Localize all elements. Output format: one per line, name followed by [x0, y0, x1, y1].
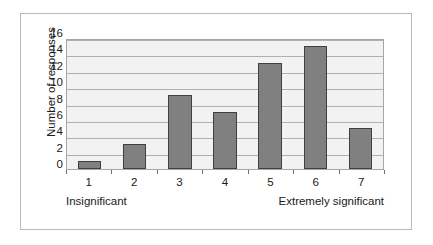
y-tick-label: 14 — [50, 43, 63, 55]
y-tick-label: 10 — [50, 76, 63, 88]
x-tick-label: 7 — [339, 176, 384, 188]
x-tick-mark — [293, 170, 294, 174]
x-axis-tick-labels: 1234567 — [66, 176, 384, 188]
bar-slot — [157, 40, 202, 169]
bar — [258, 63, 281, 169]
bar — [78, 161, 101, 169]
anchor-label-right: Extremely significant — [279, 195, 384, 207]
x-tick-mark — [111, 170, 112, 174]
x-axis-tick-marks — [66, 170, 384, 175]
y-tick-label: 16 — [50, 27, 63, 39]
bar-slot — [248, 40, 293, 169]
x-tick-label: 5 — [248, 176, 293, 188]
x-tick-mark — [202, 170, 203, 174]
y-tick-label: 8 — [57, 93, 63, 105]
bar-series — [67, 40, 383, 169]
x-tick-label: 6 — [293, 176, 338, 188]
y-tick-label: 0 — [57, 158, 63, 170]
chart-figure: Number of responses 1614121086420 123456… — [20, 13, 412, 230]
x-tick-mark — [339, 170, 340, 174]
y-tick-label: 2 — [57, 142, 63, 154]
bar-slot — [67, 40, 112, 169]
y-axis-tick-labels: 1614121086420 — [31, 33, 63, 164]
anchor-label-left: Insignificant — [66, 195, 127, 207]
y-tick-label: 4 — [57, 125, 63, 137]
x-tick-label: 2 — [111, 176, 156, 188]
bar — [123, 144, 146, 169]
x-tick-mark — [384, 170, 385, 174]
x-tick-label: 3 — [157, 176, 202, 188]
bar-slot — [112, 40, 157, 169]
bar — [213, 112, 236, 169]
bar-slot — [293, 40, 338, 169]
y-tick-label: 6 — [57, 109, 63, 121]
x-tick-mark — [157, 170, 158, 174]
y-tick-label: 12 — [50, 60, 63, 72]
scale-anchor-labels: Insignificant Extremely significant — [66, 195, 384, 207]
x-tick-mark — [248, 170, 249, 174]
bar — [349, 128, 372, 169]
x-tick-label: 4 — [202, 176, 247, 188]
bar-slot — [202, 40, 247, 169]
x-tick-mark — [66, 170, 67, 174]
bar-slot — [338, 40, 383, 169]
plot-area — [66, 39, 384, 170]
x-tick-label: 1 — [66, 176, 111, 188]
bar — [168, 95, 191, 169]
bar — [304, 46, 327, 169]
